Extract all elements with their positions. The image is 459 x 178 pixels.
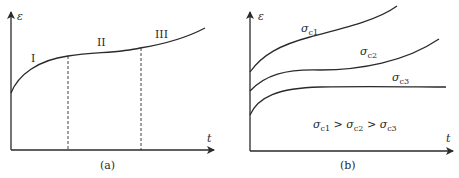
y-axis-label: ε	[258, 10, 264, 23]
y-axis-label: ε	[17, 10, 23, 23]
stage-label-1: I	[31, 52, 35, 65]
stress-relation: σc1 > σc2 > σc3	[313, 118, 397, 133]
curve-sigma-c1	[250, 6, 397, 72]
creep-curve	[11, 28, 205, 93]
curve-label-c1: σc1	[301, 22, 318, 37]
curve-label-c3: σc3	[392, 71, 409, 86]
stage-label-2: II	[97, 36, 106, 49]
x-axis-label: t	[446, 132, 451, 145]
x-axis-label: t	[207, 132, 212, 145]
panel-caption: (b)	[340, 159, 356, 172]
panel-b: ε t σc1 σc2 σc3 σc1 > σc2 > σc3 (b)	[250, 6, 453, 172]
curve-label-c2: σc2	[360, 45, 377, 60]
creep-diagram: ε t I II III (a) ε t σc1 σc2 σc3 σc1 > σ…	[0, 0, 459, 178]
curve-sigma-c2	[250, 39, 439, 91]
curve-sigma-c3	[250, 87, 446, 115]
panel-a: ε t I II III (a)	[11, 10, 214, 172]
stage-label-3: III	[155, 28, 168, 41]
panel-caption: (a)	[100, 159, 115, 172]
